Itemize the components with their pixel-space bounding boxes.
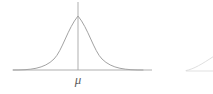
adjacent-cropped-curve: [186, 57, 213, 71]
mean-axis-label: μ: [75, 73, 82, 86]
normal-distribution-figure: μ: [0, 0, 213, 94]
figure-canvas: [0, 0, 213, 94]
